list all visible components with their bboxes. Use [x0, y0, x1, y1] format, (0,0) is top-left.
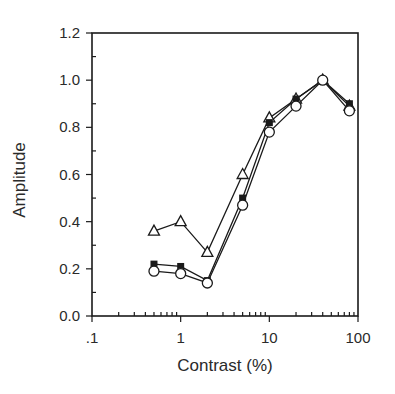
circle-marker: [291, 101, 301, 111]
plot-frame: [92, 33, 358, 316]
data-series: [148, 74, 354, 288]
circle-marker: [149, 266, 159, 276]
y-tick-label: 1.0: [40, 71, 80, 88]
triangle-marker: [237, 169, 248, 179]
axis-ticks: [86, 33, 358, 322]
circle-marker: [264, 127, 274, 137]
y-axis-label: Amplitude: [10, 142, 30, 218]
open-triangle-markers: [148, 74, 354, 256]
y-tick-label: 0.8: [40, 118, 80, 135]
y-tick-label: 1.2: [40, 24, 80, 41]
y-tick-label: 0.4: [40, 213, 80, 230]
circle-marker: [202, 278, 212, 288]
circle-marker: [176, 269, 186, 279]
circle-marker: [238, 200, 248, 210]
y-tick-label: 0.0: [40, 307, 80, 324]
x-axis-label: Contrast (%): [177, 356, 272, 376]
x-tick-label: .1: [72, 329, 112, 346]
square-marker: [266, 119, 273, 126]
circle-marker: [318, 75, 328, 85]
x-tick-label: 100: [338, 329, 378, 346]
x-tick-label: 10: [249, 329, 289, 346]
y-tick-label: 0.2: [40, 260, 80, 277]
circle-marker: [344, 106, 354, 116]
triangle-marker: [175, 216, 186, 226]
y-tick-label: 0.6: [40, 166, 80, 183]
x-tick-label: 1: [161, 329, 201, 346]
